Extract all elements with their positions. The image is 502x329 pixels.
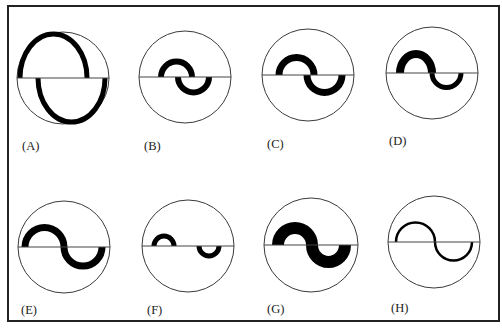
panel-a: (A) [17,32,109,153]
panel-h: (H) [388,196,480,315]
panel-label: (F) [147,303,162,317]
panel-g: (G) [264,198,358,316]
upper-arc [161,62,192,78]
panel-label: (G) [267,302,284,316]
panel-c: (C) [262,29,354,151]
panel-label: (E) [21,303,37,317]
panel-f: (F) [142,200,234,317]
panel-group: (A)(B)(C)(D)(E)(F)(G)(H) [17,27,480,317]
lower-arc [312,245,345,262]
lower-arc [432,73,461,88]
upper-arc [279,57,314,75]
upper-arc [400,54,432,73]
panel-label: (A) [22,139,39,153]
upper-arc [278,228,312,245]
panel-label: (C) [267,137,284,151]
panel-b: (B) [139,31,231,153]
lower-arc [435,242,472,261]
lower-arc [307,75,342,93]
lower-arc [64,247,102,266]
lower-arc [38,78,105,122]
panel-label: (H) [391,301,408,315]
lower-arc [199,246,219,256]
panel-d: (D) [386,27,478,148]
upper-arc [396,223,435,243]
lower-arc [178,77,209,93]
upper-arc [154,236,174,246]
panel-e: (E) [18,201,110,317]
figure-canvas: (A)(B)(C)(D)(E)(F)(G)(H) [0,0,502,329]
upper-arc [25,228,64,248]
panel-label: (D) [389,134,406,148]
panel-label: (B) [144,139,161,153]
upper-arc [20,34,87,78]
